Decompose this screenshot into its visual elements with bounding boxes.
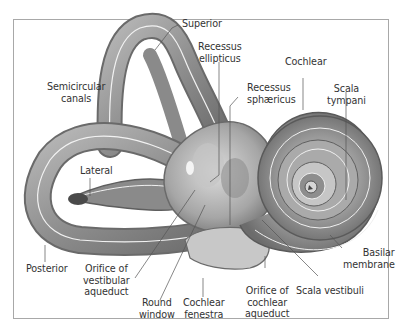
label-orifice-vestibular-aqueduct: Orifice of vestibular aqueduct [83, 263, 130, 298]
label-semicircular-canals: Semicircular canals [47, 81, 105, 104]
label-cochlear: Cochlear [285, 56, 327, 68]
recessus-sphaericus-region [221, 158, 249, 198]
label-basilar-membrane: Basilar membrane [343, 247, 395, 270]
label-superior: Superior [182, 18, 222, 30]
cochlea [240, 113, 382, 252]
label-scala-vestibuli: Scala vestibuli [296, 285, 364, 297]
label-recessus-sphaericus: Recessus sphæricus [247, 82, 296, 105]
label-orifice-cochlear-aqueduct: Orifice of cochlear aqueduct [245, 285, 289, 320]
label-lateral: Lateral [80, 165, 113, 177]
label-scala-tympani: Scala tympani [327, 83, 366, 106]
label-round-window: Round window [139, 297, 175, 320]
label-recessus-ellipticus: Recessus ellipticus [198, 41, 242, 64]
label-posterior: Posterior [26, 263, 68, 275]
label-cochlear-fenestra: Cochlear fenestra [183, 297, 225, 320]
